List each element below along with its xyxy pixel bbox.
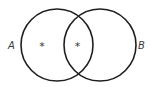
- set-a-circle: [21, 9, 93, 81]
- asterisk-icon-a-only: *: [39, 40, 45, 53]
- asterisk-icon-intersection: *: [75, 40, 81, 53]
- venn-diagram: A B * *: [0, 0, 151, 87]
- set-a-label: A: [7, 40, 15, 51]
- set-b-label: B: [138, 40, 145, 51]
